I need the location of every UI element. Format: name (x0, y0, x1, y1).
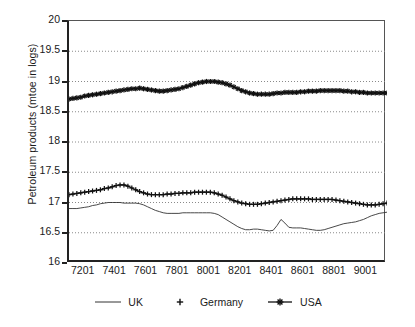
legend-key-usa-icon (265, 296, 295, 308)
y-axis-title: Petroleum products (mtoe in logs) (26, 4, 38, 244)
y-tick-label: 16.5 (20, 226, 60, 236)
plot-area (67, 20, 385, 262)
y-tick-label: 19 (20, 75, 60, 85)
legend-key-germany-icon (165, 296, 195, 308)
y-tick-label: 16 (20, 256, 60, 266)
legend-label: UK (128, 297, 143, 308)
gridlines (69, 51, 387, 233)
y-tick-mark (62, 262, 67, 264)
legend-item-usa: USA (265, 296, 322, 308)
legend-label: USA (300, 297, 322, 308)
y-tick-label: 20 (20, 14, 60, 24)
chart-figure: Petroleum products (mtoe in logs) 1616.5… (0, 0, 415, 327)
legend-label: Germany (200, 297, 243, 308)
y-tick-label: 17.5 (20, 165, 60, 175)
series-uk (69, 203, 387, 231)
series-germany (69, 182, 387, 207)
y-tick-label: 19.5 (20, 44, 60, 54)
series-canvas (69, 21, 387, 263)
y-tick-label: 17 (20, 196, 60, 206)
y-tick-label: 18 (20, 135, 60, 145)
x-tick-label: 9001 (343, 265, 387, 276)
series-usa (69, 79, 387, 102)
legend-item-germany: Germany (165, 296, 243, 308)
legend-item-uk: UK (93, 296, 143, 308)
legend-key-uk-icon (93, 296, 123, 308)
chart-legend: UKGermanyUSA (0, 296, 415, 308)
y-tick-label: 18.5 (20, 105, 60, 115)
